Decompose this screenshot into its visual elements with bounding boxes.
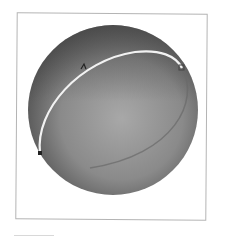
sphere (28, 25, 198, 195)
caption-rule (14, 235, 54, 236)
sphere-scene (0, 0, 225, 238)
marker-p3-icon (38, 151, 42, 155)
